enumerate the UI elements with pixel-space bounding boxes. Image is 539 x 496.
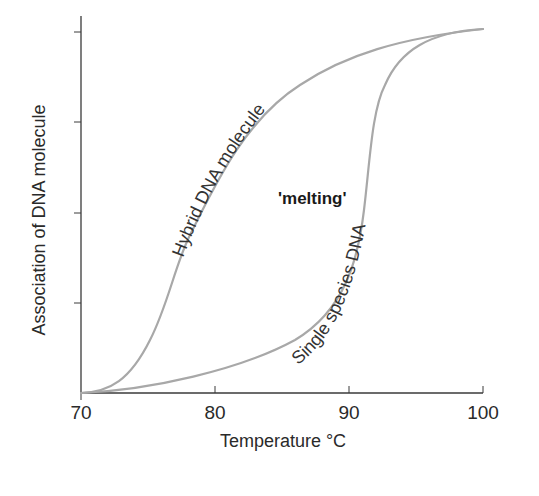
hybrid-dna-label: Hybrid DNA molecule bbox=[168, 100, 269, 260]
y-axis-title: Association of DNA molecule bbox=[29, 104, 49, 335]
x-tick-label: 90 bbox=[338, 402, 359, 423]
melting-annotation: 'melting' bbox=[278, 189, 347, 208]
single-species-dna-label: Single species DNA bbox=[288, 222, 370, 368]
x-axis: 70 80 90 100 bbox=[70, 386, 498, 423]
x-tick-label: 100 bbox=[467, 402, 499, 423]
dna-melting-chart: 70 80 90 100 Temperature °C Association … bbox=[0, 0, 539, 496]
x-axis-title: Temperature °C bbox=[220, 431, 346, 451]
y-axis bbox=[74, 16, 81, 393]
x-tick-label: 70 bbox=[70, 402, 91, 423]
single-species-dna-curve bbox=[81, 29, 483, 393]
hybrid-dna-curve bbox=[81, 29, 483, 393]
x-tick-label: 80 bbox=[204, 402, 225, 423]
